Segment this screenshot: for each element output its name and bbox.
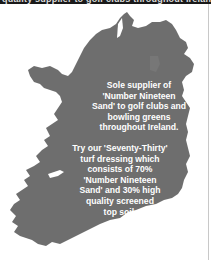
turf-dressing-promo: Try our 'Seventy-Thirty' turf dressing w… [42,143,198,217]
supplier-description: Sole supplier of 'Number Nineteen Sand' … [66,80,211,133]
